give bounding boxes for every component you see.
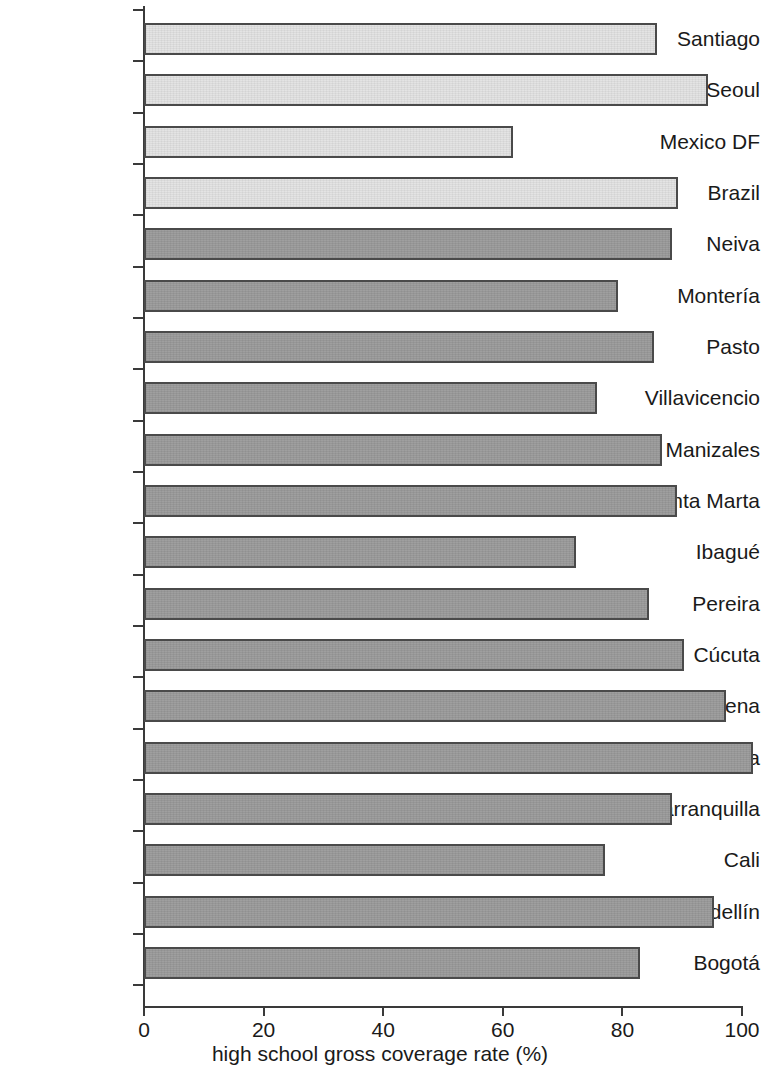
y-axis-tick — [133, 522, 144, 524]
category-label: Cali — [628, 848, 760, 872]
bar — [144, 331, 654, 363]
y-axis-tick — [133, 625, 144, 627]
x-axis-tick — [741, 1006, 743, 1016]
bar — [144, 793, 672, 825]
category-label: Villavicencio — [628, 386, 760, 410]
y-axis-tick — [133, 676, 144, 678]
bar — [144, 126, 513, 158]
y-axis-tick — [133, 9, 144, 11]
bar — [144, 280, 618, 312]
bar — [144, 742, 753, 774]
bar — [144, 382, 597, 414]
y-axis-tick — [133, 882, 144, 884]
y-axis-tick — [133, 728, 144, 730]
category-label: Bogotá — [628, 951, 760, 975]
bar — [144, 23, 657, 55]
y-axis-tick — [133, 60, 144, 62]
x-axis-tick-label: 0 — [104, 1018, 184, 1042]
y-axis-tick — [133, 471, 144, 473]
x-axis-line — [143, 1006, 743, 1008]
category-label: Ibagué — [628, 540, 760, 564]
y-axis-tick — [133, 214, 144, 216]
x-axis-tick-label: 80 — [582, 1018, 662, 1042]
bar — [144, 434, 662, 466]
bar — [144, 588, 649, 620]
y-axis-tick — [133, 779, 144, 781]
bar — [144, 844, 605, 876]
category-label: Montería — [628, 284, 760, 308]
bar — [144, 896, 714, 928]
x-axis-tick — [621, 1006, 623, 1016]
y-axis-tick — [133, 317, 144, 319]
bar — [144, 228, 672, 260]
y-axis-tick — [133, 112, 144, 114]
bar — [144, 690, 726, 722]
x-axis-tick-label: 40 — [343, 1018, 423, 1042]
bar — [144, 947, 640, 979]
x-axis-tick-label: 100 — [702, 1018, 765, 1042]
x-axis-title: high school gross coverage rate (%) — [0, 1042, 760, 1066]
y-axis-tick — [133, 830, 144, 832]
y-axis-tick — [133, 574, 144, 576]
bar — [144, 536, 576, 568]
y-axis-tick — [133, 933, 144, 935]
x-axis-tick-label: 60 — [463, 1018, 543, 1042]
x-axis-tick-label: 20 — [224, 1018, 304, 1042]
bar — [144, 177, 678, 209]
x-axis-tick — [382, 1006, 384, 1016]
x-axis-tick — [502, 1006, 504, 1016]
y-axis-tick — [133, 266, 144, 268]
bar — [144, 485, 677, 517]
y-axis-tick — [133, 163, 144, 165]
y-axis-tick — [133, 368, 144, 370]
x-axis-tick — [143, 1006, 145, 1016]
bar — [144, 74, 708, 106]
category-label: Mexico DF — [628, 130, 760, 154]
y-axis-tick — [133, 420, 144, 422]
bar — [144, 639, 684, 671]
x-axis-tick — [263, 1006, 265, 1016]
y-axis-tick — [133, 984, 144, 986]
